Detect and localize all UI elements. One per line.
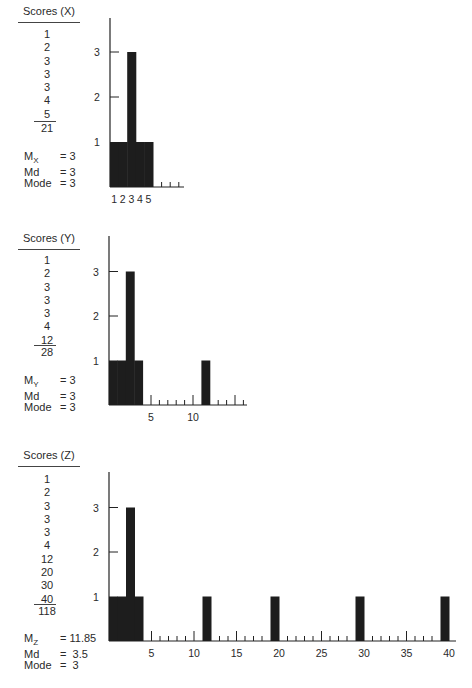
x-tick-label: 5 — [149, 647, 155, 659]
y-tick-label: 1 — [93, 591, 99, 603]
histogram-bar — [134, 361, 143, 406]
histogram-bar — [109, 361, 118, 406]
x-tick-label: 40 — [443, 647, 455, 659]
histogram-bar — [118, 597, 127, 642]
y-tick-label: 3 — [94, 46, 100, 58]
histogram-bar — [110, 142, 119, 187]
histogram-bar — [203, 597, 212, 642]
x-tick-label: 10 — [188, 647, 200, 659]
x-tick-label: 10 — [187, 411, 199, 423]
histogram-bar — [117, 361, 126, 406]
histogram-bar — [119, 142, 128, 187]
histogram-bar — [126, 272, 135, 406]
histogram-bar — [271, 597, 280, 642]
y-tick-label: 2 — [93, 546, 99, 558]
histogram-bar — [135, 597, 144, 642]
histogram-charts: 12312345123510123510152025303540 — [0, 0, 472, 688]
x-tick-label: 5 — [146, 193, 152, 205]
x-tick-label: 3 — [128, 193, 134, 205]
histogram-bar — [109, 597, 118, 642]
x-tick-label: 4 — [137, 193, 143, 205]
histogram-bar — [356, 597, 365, 642]
y-tick-label: 1 — [94, 136, 100, 148]
x-tick-label: 25 — [316, 647, 328, 659]
y-tick-label: 2 — [94, 91, 100, 103]
x-tick-label: 1 — [111, 193, 117, 205]
y-tick-label: 3 — [93, 266, 99, 278]
histogram-bar — [127, 52, 136, 187]
x-tick-label: 35 — [401, 647, 413, 659]
y-tick-label: 2 — [93, 310, 99, 322]
histogram-bar — [201, 361, 210, 406]
y-tick-label: 1 — [93, 355, 99, 367]
x-tick-label: 20 — [273, 647, 285, 659]
histogram-bar — [126, 508, 135, 642]
histogram-bar — [144, 142, 153, 187]
x-tick-label: 5 — [148, 411, 154, 423]
x-tick-label: 15 — [231, 647, 243, 659]
histogram-bar — [136, 142, 145, 187]
x-tick-label: 30 — [358, 647, 370, 659]
histogram-bar — [441, 597, 450, 642]
x-tick-label: 2 — [120, 193, 126, 205]
y-tick-label: 3 — [93, 502, 99, 514]
